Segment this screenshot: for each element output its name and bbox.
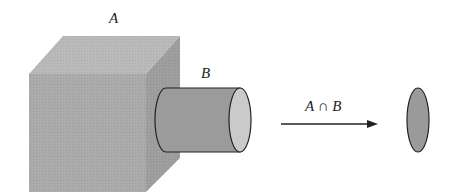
cylinder-b <box>155 88 251 152</box>
arrow-right <box>281 120 378 128</box>
cylinder-cap <box>229 88 251 152</box>
intersection-disc <box>407 88 429 152</box>
label-set-a: A <box>108 10 119 26</box>
label-intersection: A ∩ B <box>304 98 341 114</box>
label-set-b: B <box>201 65 210 81</box>
arrowhead-icon <box>367 120 378 128</box>
intersection-diagram: A B A ∩ B <box>0 0 452 196</box>
cylinder-body <box>155 88 240 152</box>
